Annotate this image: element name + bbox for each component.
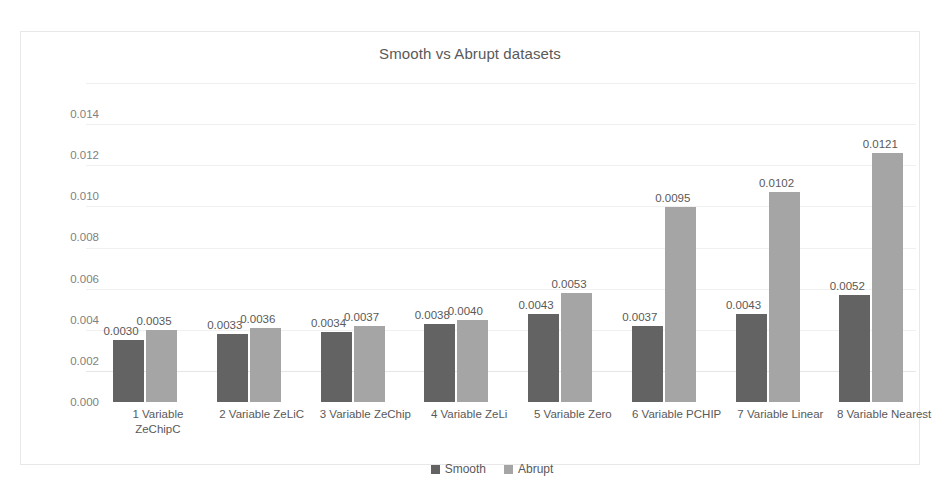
bar-value-label: 0.0030 bbox=[93, 325, 149, 337]
bar-group: 0.00370.0095 bbox=[625, 114, 729, 402]
bar-abrupt[interactable] bbox=[561, 293, 592, 402]
x-axis-category-label: 6 Variable PCHIP bbox=[625, 407, 729, 422]
bar-smooth[interactable] bbox=[321, 332, 352, 402]
bar-value-label: 0.0053 bbox=[541, 278, 597, 290]
chart-legend: SmoothAbrupt bbox=[21, 462, 942, 476]
bar-group: 0.00430.0053 bbox=[521, 114, 625, 402]
x-axis-category-label: 5 Variable Zero bbox=[521, 407, 625, 422]
bar-value-label: 0.0043 bbox=[716, 299, 772, 311]
x-axis-category-label: 2 Variable ZeLiC bbox=[210, 407, 314, 422]
legend-item-abrupt[interactable]: Abrupt bbox=[504, 462, 553, 476]
bar-value-label: 0.0095 bbox=[645, 192, 701, 204]
x-axis-category-label: 4 Variable ZeLi bbox=[417, 407, 521, 422]
bar-smooth[interactable] bbox=[839, 295, 870, 402]
bar-group: 0.00430.0102 bbox=[729, 114, 833, 402]
bar-value-label: 0.0043 bbox=[508, 299, 564, 311]
y-axis-tick-label: 0.010 bbox=[70, 190, 99, 202]
y-axis-tick-label: 0.014 bbox=[70, 108, 99, 120]
bar-abrupt[interactable] bbox=[872, 153, 903, 402]
chart-title: Smooth vs Abrupt datasets bbox=[21, 45, 919, 62]
bar-smooth[interactable] bbox=[632, 326, 663, 402]
bar-value-label: 0.0040 bbox=[437, 305, 493, 317]
legend-swatch-abrupt bbox=[504, 465, 513, 474]
bar-abrupt[interactable] bbox=[354, 326, 385, 402]
bar-smooth[interactable] bbox=[736, 314, 767, 402]
x-axis-category-label: 1 VariableZeChipC bbox=[106, 407, 210, 437]
y-axis-tick-label: 0.006 bbox=[70, 273, 99, 285]
bar-abrupt[interactable] bbox=[457, 320, 488, 402]
y-axis-tick-label: 0.000 bbox=[70, 396, 99, 408]
y-axis-tick-label: 0.008 bbox=[70, 231, 99, 243]
bar-value-label: 0.0102 bbox=[749, 177, 805, 189]
bar-abrupt[interactable] bbox=[769, 192, 800, 402]
bar-smooth[interactable] bbox=[528, 314, 559, 402]
bar-abrupt[interactable] bbox=[250, 328, 281, 402]
y-axis-tick-label: 0.002 bbox=[70, 355, 99, 367]
bar-smooth[interactable] bbox=[424, 324, 455, 402]
gridline bbox=[86, 83, 916, 84]
y-axis: 0.0140.0120.0100.0080.0060.0040.0020.000 bbox=[21, 114, 99, 402]
bar-group: 0.00340.0037 bbox=[314, 114, 418, 402]
bar-group: 0.00300.0035 bbox=[106, 114, 210, 402]
bar-abrupt[interactable] bbox=[665, 207, 696, 402]
bar-abrupt[interactable] bbox=[146, 330, 177, 402]
bar-group: 0.00380.0040 bbox=[417, 114, 521, 402]
bars-layer: 0.00300.00350.00330.00360.00340.00370.00… bbox=[106, 114, 936, 402]
bar-group: 0.00330.0036 bbox=[210, 114, 314, 402]
x-axis-category-label: 7 Variable Linear bbox=[729, 407, 833, 422]
bar-value-label: 0.0036 bbox=[230, 313, 286, 325]
legend-item-smooth[interactable]: Smooth bbox=[431, 462, 486, 476]
bar-value-label: 0.0035 bbox=[126, 315, 182, 327]
y-axis-tick-label: 0.004 bbox=[70, 314, 99, 326]
bar-value-label: 0.0121 bbox=[852, 138, 908, 150]
bar-value-label: 0.0052 bbox=[819, 280, 875, 292]
legend-label: Smooth bbox=[445, 462, 486, 476]
legend-label: Abrupt bbox=[518, 462, 553, 476]
bar-smooth[interactable] bbox=[113, 340, 144, 402]
bar-smooth[interactable] bbox=[217, 334, 248, 402]
chart-container: Smooth vs Abrupt datasets 0.0140.0120.01… bbox=[20, 31, 920, 465]
x-axis-category-label: 3 Variable ZeChip bbox=[314, 407, 418, 422]
bar-value-label: 0.0037 bbox=[612, 311, 668, 323]
x-axis-category-label: 8 Variable Nearest bbox=[832, 407, 936, 422]
bar-value-label: 0.0037 bbox=[334, 311, 390, 323]
y-axis-tick-label: 0.012 bbox=[70, 149, 99, 161]
x-axis: 1 VariableZeChipC2 Variable ZeLiC3 Varia… bbox=[106, 407, 936, 452]
legend-swatch-smooth bbox=[431, 465, 440, 474]
bar-group: 0.00520.0121 bbox=[832, 114, 936, 402]
